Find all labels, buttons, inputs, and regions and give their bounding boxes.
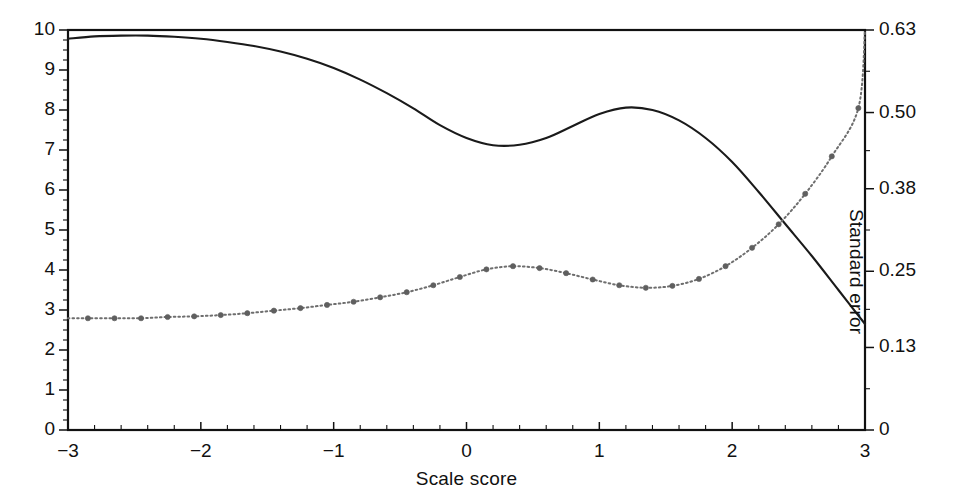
y-tick-label: 8 [44,98,55,120]
se-data-point [484,267,489,272]
se-data-point [271,308,276,313]
y2-tick-label: 0 [879,418,890,440]
se-data-point [856,106,861,111]
y-tick-label: 10 [34,18,55,40]
y-tick-label: 2 [44,338,55,360]
se-data-point [138,316,143,321]
y-tick-label: 9 [44,58,55,80]
standard-error-curve [68,30,865,318]
x-tick-label: −2 [190,440,212,462]
standard-error-markers [85,106,861,321]
se-data-point [218,312,223,317]
se-data-point [404,290,409,295]
se-data-point [776,222,781,227]
information-curve [68,35,865,324]
y-tick-label: 7 [44,138,55,160]
y-tick-label: 6 [44,178,55,200]
se-data-point [510,264,515,269]
x-tick-label: 0 [461,440,472,462]
y2-tick-label: 0.38 [879,177,916,199]
y-axis-right-title: Standard error [845,209,867,334]
se-data-point [590,277,595,282]
se-data-point [696,276,701,281]
se-data-point [537,266,542,271]
x-tick-label: 1 [594,440,605,462]
se-data-point [324,302,329,307]
se-data-point [829,154,834,159]
y-tick-label: 4 [44,258,55,280]
se-data-point [457,274,462,279]
y-tick-label: 3 [44,298,55,320]
se-data-point [378,295,383,300]
x-axis-title: Scale score [416,468,517,490]
se-data-point [723,264,728,269]
se-data-point [431,283,436,288]
x-tick-label: 3 [860,440,871,462]
se-data-point [670,283,675,288]
x-tick-label: 2 [727,440,738,462]
y-tick-label: 5 [44,218,55,240]
se-data-point [617,283,622,288]
y2-tick-label: 0.13 [879,335,916,357]
se-data-point [112,316,117,321]
se-data-point [165,314,170,319]
x-axis-ticks [68,422,865,430]
se-data-point [564,271,569,276]
y-tick-label: 1 [44,378,55,400]
x-tick-label: −3 [57,440,79,462]
y2-tick-label: 0.63 [879,18,916,40]
y-axis-left-ticks [59,30,68,430]
se-data-point [803,191,808,196]
y-tick-label: 0 [44,418,55,440]
se-data-point [192,314,197,319]
chart-canvas [0,0,957,504]
se-data-point [643,285,648,290]
y2-tick-label: 0.25 [879,259,916,281]
information-standard-error-chart: −3−2−10123 012345678910 00.130.250.380.5… [0,0,957,504]
x-tick-label: −1 [323,440,345,462]
se-data-point [298,306,303,311]
se-data-point [85,316,90,321]
se-data-point [749,245,754,250]
se-data-point [245,311,250,316]
se-data-point [351,299,356,304]
y2-tick-label: 0.50 [879,101,916,123]
plot-frame [68,30,865,430]
